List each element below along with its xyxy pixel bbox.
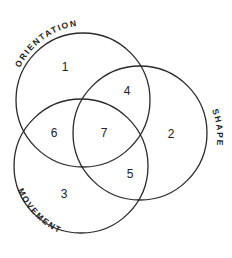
region-4-label: 4: [124, 84, 131, 98]
venn-diagram: ORIENTATION SHAPE MOVEMENT 1 2 3 4 5 6 7: [0, 0, 232, 258]
shape-label: SHAPE: [210, 107, 225, 147]
region-7-label: 7: [101, 126, 108, 140]
region-2-label: 2: [168, 127, 175, 141]
movement-label: MOVEMENT: [16, 187, 64, 236]
orientation-label: ORIENTATION: [13, 18, 79, 69]
region-5-label: 5: [127, 167, 134, 181]
region-3-label: 3: [61, 187, 68, 201]
region-6-label: 6: [51, 126, 58, 140]
region-1-label: 1: [62, 60, 69, 74]
orientation-circle: [16, 33, 150, 167]
